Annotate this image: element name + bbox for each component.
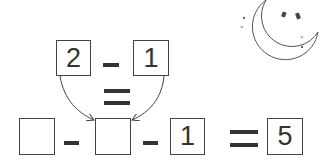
top-left-value: 2 [66,45,81,72]
moon-icon: × × [240,0,318,60]
result-box: 5 [267,118,303,155]
top-right-box: 1 [133,40,169,76]
arrow-left [60,76,94,120]
middle-equals-top-bar [104,89,130,93]
answer-box-1[interactable] [19,118,55,155]
arrow-right [132,76,164,120]
top-minus-sign [103,63,119,67]
result-value: 5 [277,123,292,150]
middle-equals-bottom-bar [104,101,130,105]
top-right-value: 1 [143,45,158,72]
bottom-minus-sign-2 [143,141,158,145]
bottom-box-3: 1 [170,118,205,155]
top-left-box: 2 [56,40,91,76]
bottom-equals-top-bar [230,130,258,134]
bottom-minus-sign-1 [64,141,79,145]
bottom-box-3-value: 1 [180,123,195,150]
svg-text:×: × [300,34,304,40]
answer-box-2[interactable] [95,118,131,155]
svg-text:×: × [240,24,244,30]
bottom-equals-bottom-bar [230,143,258,147]
